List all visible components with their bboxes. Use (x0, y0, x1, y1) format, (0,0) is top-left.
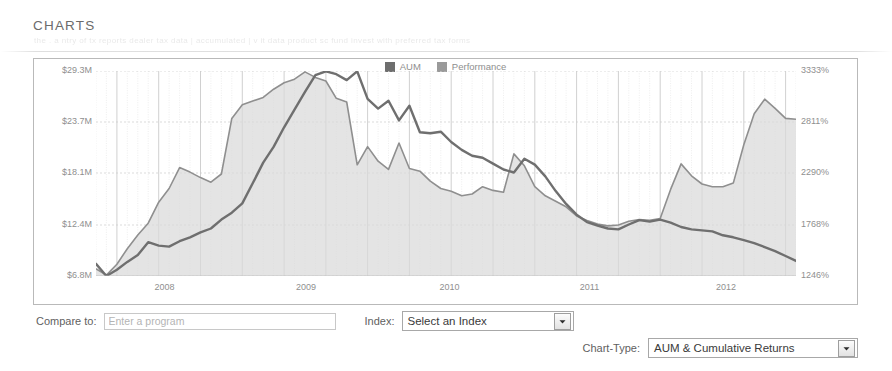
y-axis-left-tick: $18.1M (40, 167, 92, 177)
chevron-down-icon[interactable] (554, 313, 571, 330)
y-axis-right-tick: 1768% (801, 219, 829, 229)
compare-to-label: Compare to: (36, 315, 97, 327)
background-artifact-text: the . a ntry of tx reports dealer tax da… (34, 36, 862, 47)
x-axis-tick: 2010 (428, 282, 472, 292)
chart-svg (96, 71, 796, 276)
chevron-down-icon[interactable] (838, 340, 855, 357)
chart-type-select-value: AUM & Cumulative Returns (654, 342, 795, 354)
chart-panel: AUM Performance $6.8M$12.4M$18.1M$23.7M$… (33, 58, 858, 305)
y-axis-right-tick: 2290% (801, 167, 829, 177)
y-axis-right-tick: 3333% (801, 65, 829, 75)
index-label: Index: (365, 315, 395, 327)
charttype-row: Chart-Type: AUM & Cumulative Returns (583, 338, 858, 358)
y-axis-left-tick: $12.4M (40, 219, 92, 229)
page-title: CHARTS (33, 18, 95, 33)
compare-row: Compare to: Index: Select an Index (36, 311, 574, 331)
x-axis-tick: 2012 (704, 282, 748, 292)
index-select[interactable]: Select an Index (402, 311, 574, 331)
legend-swatch-performance (437, 62, 447, 72)
chart-type-select[interactable]: AUM & Cumulative Returns (648, 338, 858, 358)
compare-program-input[interactable] (104, 313, 336, 330)
header-divider (0, 51, 892, 52)
y-axis-left-tick: $23.7M (40, 116, 92, 126)
x-axis-tick: 2009 (284, 282, 328, 292)
x-axis-tick: 2008 (143, 282, 187, 292)
x-axis-tick: 2011 (568, 282, 612, 292)
y-axis-left-tick: $29.3M (40, 65, 92, 75)
y-axis-right-tick: 1246% (801, 270, 829, 280)
index-select-value: Select an Index (408, 315, 487, 327)
plot-area (96, 71, 796, 276)
y-axis-left-tick: $6.8M (40, 270, 92, 280)
chart-type-label: Chart-Type: (583, 342, 640, 354)
legend-swatch-aum (385, 62, 395, 72)
y-axis-right-tick: 2811% (801, 116, 828, 126)
